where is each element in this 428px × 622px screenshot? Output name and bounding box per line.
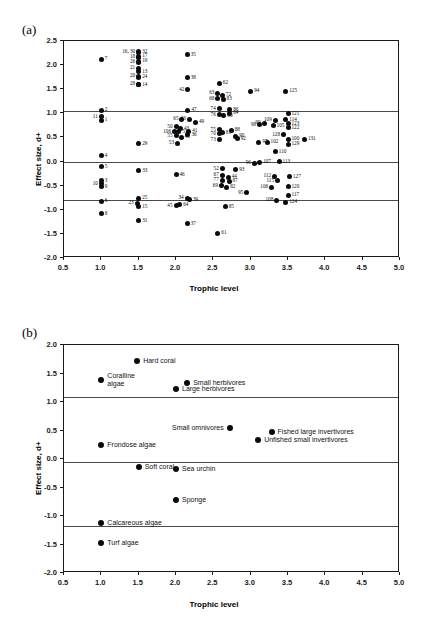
- data-point-label: 125: [289, 88, 297, 94]
- data-point: [220, 178, 225, 183]
- data-point-label: 105: [277, 123, 285, 129]
- panel-b: (b) Hard coralCorallinealgaeSmall herbiv…: [0, 311, 428, 622]
- x-tick-label: 5.0: [385, 578, 413, 587]
- data-point-label: 46: [180, 172, 185, 178]
- data-point: [136, 204, 141, 209]
- panel-a-plot-frame: 721114539106816, 30321826171921132024281…: [63, 40, 399, 257]
- x-tick-mark: [399, 257, 400, 260]
- y-tick-mark: [60, 487, 63, 488]
- y-tick-mark: [60, 88, 63, 89]
- data-point: [217, 81, 222, 86]
- data-point-label: 37: [191, 221, 196, 227]
- data-point-label: 66: [181, 116, 186, 122]
- data-point: [274, 198, 279, 203]
- x-tick-label: 2.0: [161, 578, 189, 587]
- data-point: [227, 425, 233, 431]
- x-tick-mark: [362, 572, 363, 575]
- data-point-label: 33: [142, 168, 147, 174]
- data-point-label: 85: [229, 204, 234, 210]
- y-tick-label: 2.5: [29, 36, 57, 45]
- data-point-label: 68: [209, 96, 214, 102]
- data-point: [269, 185, 274, 190]
- data-point: [217, 106, 222, 111]
- data-point: [273, 118, 278, 123]
- data-point-label: 48: [185, 135, 190, 141]
- data-point-label: 113: [283, 159, 291, 165]
- data-point: [256, 140, 261, 145]
- y-tick-label: -2.0: [29, 253, 57, 262]
- data-point: [215, 96, 220, 101]
- data-point-label: Turf algae: [107, 539, 138, 547]
- x-tick-label: 2.0: [161, 263, 189, 272]
- data-point: [136, 59, 141, 64]
- data-point: [283, 200, 288, 205]
- data-point: [302, 137, 307, 142]
- data-point: [136, 218, 141, 223]
- y-tick-mark: [60, 458, 63, 459]
- x-tick-label: 2.5: [198, 263, 226, 272]
- data-point-label: 108: [266, 197, 274, 203]
- data-point: [223, 204, 228, 209]
- data-point-label: 36: [191, 132, 196, 138]
- x-tick-label: 3.5: [273, 578, 301, 587]
- data-point-label: 94: [254, 88, 259, 94]
- panel-a: (a) 721114539106816, 3032182617192113202…: [0, 0, 428, 311]
- data-point: [229, 128, 234, 133]
- data-point: [98, 377, 104, 383]
- data-point-label: 110: [279, 149, 287, 155]
- panel-b-plot-frame: Hard coralCorallinealgaeSmall herbivores…: [63, 344, 399, 572]
- data-point-label: 106: [260, 184, 268, 190]
- data-point-label: 131: [308, 137, 316, 143]
- data-point-label: 109: [264, 117, 272, 123]
- x-tick-label: 4.0: [310, 578, 338, 587]
- data-point-label: 28: [130, 82, 135, 88]
- data-point-label: 99: [255, 121, 260, 127]
- x-tick-mark: [175, 257, 176, 260]
- data-point: [273, 149, 278, 154]
- data-point: [136, 168, 141, 173]
- data-point-label: 102: [271, 140, 279, 146]
- reference-line-1: [64, 162, 398, 163]
- data-point-label: 95: [238, 190, 243, 196]
- data-point-label: 29: [142, 141, 147, 147]
- data-point: [185, 221, 190, 226]
- data-point: [283, 89, 288, 94]
- data-point: [99, 57, 104, 62]
- y-tick-label: -1.0: [29, 511, 57, 520]
- y-tick-mark: [60, 515, 63, 516]
- data-point: [99, 199, 104, 204]
- y-tick-label: -1.5: [29, 540, 57, 549]
- data-point: [136, 75, 141, 80]
- y-tick-label: 1.5: [29, 84, 57, 93]
- data-point: [185, 108, 190, 113]
- data-point-label: Sea urchin: [182, 465, 215, 473]
- data-point-label: Frondose algae: [107, 441, 156, 449]
- data-point: [134, 358, 140, 364]
- data-point-label: 76: [211, 112, 216, 118]
- data-point: [136, 82, 141, 87]
- data-point-label: 9: [105, 184, 108, 190]
- data-point: [179, 135, 184, 140]
- y-tick-mark: [60, 136, 63, 137]
- data-point-label: 73: [211, 137, 216, 143]
- data-point-label: 19: [142, 59, 147, 65]
- data-point-label: 83: [227, 97, 232, 103]
- y-tick-mark: [60, 544, 63, 545]
- data-point: [173, 497, 179, 503]
- y-tick-mark: [60, 401, 63, 402]
- data-point: [185, 52, 190, 57]
- y-tick-label: -1.5: [29, 229, 57, 238]
- x-tick-mark: [212, 572, 213, 575]
- data-point: [136, 196, 141, 201]
- x-tick-label: 1.5: [124, 578, 152, 587]
- data-point-label: 55: [167, 133, 172, 139]
- y-tick-label: -0.5: [29, 483, 57, 492]
- data-point: [221, 97, 226, 102]
- x-tick-label: 2.5: [198, 578, 226, 587]
- y-tick-mark: [60, 373, 63, 374]
- data-point-label: 24: [142, 74, 147, 80]
- data-point-label: 117: [292, 193, 300, 199]
- data-point-label: 23: [128, 200, 133, 206]
- data-point-label: Calcareous algae: [107, 519, 161, 527]
- x-tick-mark: [63, 572, 64, 575]
